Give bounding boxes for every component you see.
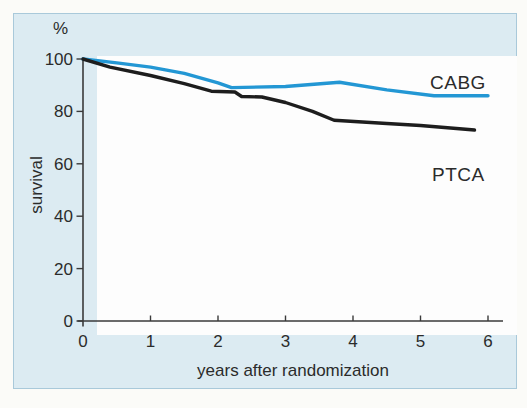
page: 0204060801000123456 % survival years aft… [0,0,527,408]
x-tick-label-3: 3 [281,332,290,351]
x-tick-label-0: 0 [78,332,87,351]
series-label-cabg: CABG [430,72,486,94]
y-axis-unit-label: % [53,19,68,39]
y-axis-title: survival [27,156,47,214]
x-tick-label-4: 4 [348,332,357,351]
y-tick-label-40: 40 [54,207,73,226]
chart-canvas: 0204060801000123456 [0,0,527,408]
x-tick-label-6: 6 [483,332,492,351]
x-tick-label-2: 2 [213,332,222,351]
cabg-line [83,59,488,96]
y-tick-label-60: 60 [54,155,73,174]
y-tick-label-20: 20 [54,260,73,279]
series-label-ptca: PTCA [432,164,485,186]
x-axis-title: years after randomization [197,361,389,381]
x-tick-label-1: 1 [146,332,155,351]
y-tick-label-0: 0 [64,312,73,331]
y-tick-label-80: 80 [54,102,73,121]
caption-remnant [22,400,502,406]
y-tick-label-100: 100 [45,50,73,69]
x-tick-label-5: 5 [416,332,425,351]
